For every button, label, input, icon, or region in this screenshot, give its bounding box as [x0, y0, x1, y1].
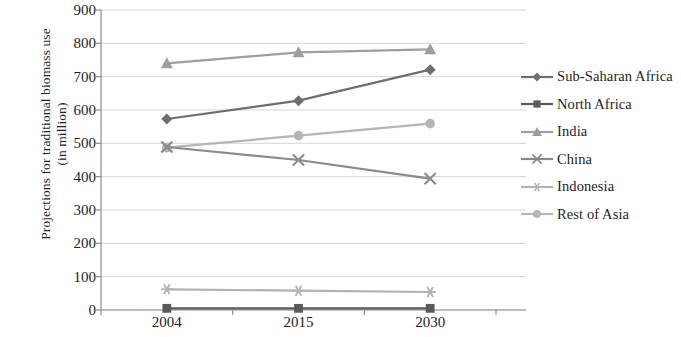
data-point-marker: [293, 95, 304, 106]
series-sub-saharan-africa: [161, 64, 435, 124]
data-point-marker: [161, 114, 172, 125]
data-point-marker: [425, 64, 436, 75]
legend-key-graphic: [520, 151, 554, 167]
legend-item-label: India: [557, 123, 587, 140]
legend-item-label: Sub-Saharan Africa: [557, 68, 673, 85]
legend-marker-asterisk-icon: [520, 179, 554, 195]
data-point-marker: [532, 72, 541, 81]
legend-item-label: Indonesia: [557, 178, 614, 195]
x-tick-label: 2004: [152, 314, 182, 331]
legend-marker-circle-icon: [520, 206, 554, 222]
legend-item[interactable]: Indonesia: [520, 173, 680, 201]
series-rest-of-asia: [162, 119, 435, 153]
chart-legend: Sub-Saharan AfricaNorth AfricaIndiaChina…: [520, 63, 680, 228]
legend-marker-square-icon: [520, 96, 554, 112]
series-north-africa: [162, 304, 434, 313]
data-point-marker: [294, 304, 303, 313]
legend-item[interactable]: China: [520, 146, 680, 174]
legend-item[interactable]: Rest of Asia: [520, 201, 680, 229]
legend-key-graphic: [520, 179, 554, 195]
series-line: [167, 147, 430, 179]
data-point-marker: [162, 304, 171, 313]
legend-item[interactable]: India: [520, 118, 680, 146]
chart-container: Projections for traditional biomass use …: [0, 0, 681, 337]
legend-item[interactable]: Sub-Saharan Africa: [520, 63, 680, 91]
data-point-marker: [425, 119, 435, 129]
legend-key-graphic: [520, 69, 554, 85]
data-point-marker: [294, 131, 304, 141]
legend-item-label: Rest of Asia: [557, 206, 629, 223]
series-indonesia: [161, 284, 436, 296]
legend-marker-diamond-icon: [520, 69, 554, 85]
series-india: [161, 43, 436, 68]
data-point-marker: [533, 210, 541, 218]
legend-marker-triangle-icon: [520, 124, 554, 140]
legend-key-graphic: [520, 206, 554, 222]
legend-key-graphic: [520, 96, 554, 112]
data-point-marker: [293, 286, 304, 296]
legend-item[interactable]: North Africa: [520, 91, 680, 119]
legend-marker-x-icon: [520, 151, 554, 167]
data-point-marker: [426, 304, 435, 313]
data-point-marker: [425, 287, 436, 297]
data-point-marker: [532, 183, 541, 191]
legend-item-label: China: [557, 151, 592, 168]
series-china: [161, 141, 436, 184]
legend-item-label: North Africa: [557, 96, 632, 113]
data-point-marker: [533, 101, 540, 108]
legend-key-graphic: [520, 124, 554, 140]
x-tick-label: 2030: [415, 314, 445, 331]
data-point-marker: [161, 284, 172, 294]
x-tick-label: 2015: [284, 314, 314, 331]
